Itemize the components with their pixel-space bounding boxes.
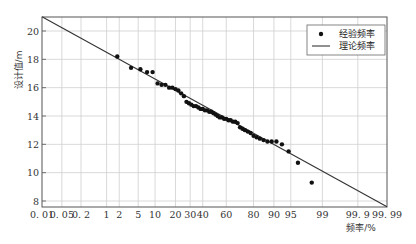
x-tick-label: 2	[116, 209, 122, 220]
x-tick-label: 20	[169, 209, 181, 220]
data-point	[115, 54, 119, 58]
x-tick-label: 10	[149, 209, 161, 220]
data-point	[155, 81, 159, 85]
data-point	[265, 139, 269, 143]
x-tick-label: 5	[135, 209, 141, 220]
data-point	[163, 83, 167, 87]
x-tick-label: 0. 05	[50, 209, 74, 220]
y-tick-label: 20	[27, 26, 39, 37]
y-tick-label: 10	[27, 167, 39, 178]
x-axis-ticks: 0. 010. 050. 212510203040608090959999. 9…	[30, 209, 402, 220]
x-tick-label: 40	[197, 209, 209, 220]
data-point	[296, 161, 300, 165]
data-point	[274, 139, 278, 143]
x-tick-label: 30	[184, 209, 196, 220]
data-point	[310, 180, 314, 184]
y-axis-ticks: 8101214161820	[27, 26, 46, 207]
data-point	[145, 70, 149, 74]
data-point	[269, 139, 273, 143]
data-point	[129, 66, 133, 70]
data-point	[182, 94, 186, 98]
x-tick-label: 1	[104, 209, 110, 220]
data-point	[280, 142, 284, 146]
x-tick-label: 99. 9	[346, 209, 370, 220]
data-point	[138, 67, 142, 71]
data-point	[261, 138, 265, 142]
x-tick-label: 60	[220, 209, 232, 220]
x-tick-label: 95	[285, 209, 297, 220]
legend: 经验频率 理论频率	[307, 25, 385, 55]
y-axis-label: 设计值/m	[13, 51, 24, 90]
data-point	[286, 149, 290, 153]
legend-label-empirical: 经验频率	[339, 28, 375, 39]
y-tick-label: 14	[27, 111, 39, 122]
x-tick-label: 0. 2	[72, 209, 90, 220]
x-axis-label: 频率/%	[346, 222, 376, 233]
x-tick-label: 99	[316, 209, 328, 220]
y-tick-label: 16	[27, 82, 39, 93]
frequency-chart: 0. 010. 050. 212510203040608090959999. 9…	[0, 0, 416, 244]
data-point	[150, 70, 154, 74]
y-tick-label: 18	[27, 54, 39, 65]
x-tick-label: 80	[247, 209, 259, 220]
x-tick-label: 99. 99	[372, 209, 402, 220]
data-point	[159, 83, 163, 87]
x-tick-label: 90	[268, 209, 280, 220]
data-point	[235, 121, 239, 125]
legend-label-theoretical: 理论频率	[339, 40, 375, 51]
legend-dot-icon	[319, 32, 323, 36]
y-tick-label: 12	[27, 139, 39, 150]
y-tick-label: 8	[33, 196, 39, 207]
